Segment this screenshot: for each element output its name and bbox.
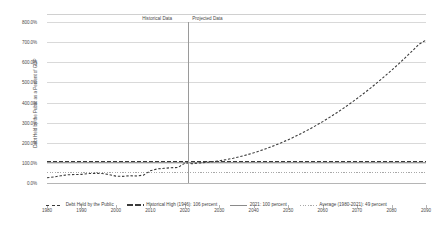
x-axis-tick-label: 1980 [32, 208, 62, 213]
series-debt-held-by-public [47, 22, 426, 183]
x-axis-tick-label: 2080 [377, 208, 407, 213]
x-axis-tick-label: 2040 [239, 208, 269, 213]
historical-data-rule [47, 14, 188, 15]
legend-item-label: Debt Held by the Public [66, 203, 114, 208]
legend-item-label: Average (1980-2021): 49 percent [319, 203, 387, 208]
y-axis-tick-label: 800.0% [0, 20, 37, 25]
legend-swatch-icon [127, 204, 144, 206]
legend-item[interactable]: 2021: 100 percent [230, 203, 287, 208]
y-axis-tick-label: 300.0% [0, 120, 37, 125]
y-axis-tick-label: 700.0% [0, 40, 37, 45]
x-axis-tick-label: 2090 [411, 208, 433, 213]
x-axis-tick-label: 2050 [273, 208, 303, 213]
legend-item[interactable]: Debt Held by the Public [46, 203, 114, 208]
series-line-path [47, 40, 426, 178]
x-axis-tick-label: 2000 [101, 208, 131, 213]
y-axis-tick-label: 600.0% [0, 60, 37, 65]
x-axis-tick-label: 2010 [135, 208, 165, 213]
y-axis-tick-label: 500.0% [0, 80, 37, 85]
y-axis-tick-label: 100.0% [0, 160, 37, 165]
chart-container: 0.0%100.0%200.0%300.0%400.0%500.0%600.0%… [0, 0, 433, 232]
legend-swatch-icon [230, 205, 247, 206]
x-axis-tick-label: 2060 [308, 208, 338, 213]
chart-legend: Debt Held by the PublicHistorical High (… [0, 203, 433, 208]
legend-swatch-icon [300, 205, 317, 206]
historical-data-label: Historical Data [142, 16, 172, 21]
legend-item-label: Historical High (1946): 106 percent [146, 203, 217, 208]
projected-data-rule [188, 14, 426, 15]
y-axis-tick-label: 400.0% [0, 100, 37, 105]
y-axis-tick-label: 0.0% [0, 181, 37, 186]
historical-projected-divider [188, 22, 189, 183]
x-axis-tick-label: 2020 [170, 208, 200, 213]
x-axis-tick-label: 2070 [342, 208, 372, 213]
gridline-y [47, 183, 426, 184]
x-axis-tick-label: 2030 [204, 208, 234, 213]
legend-item[interactable]: Average (1980-2021): 49 percent [300, 203, 387, 208]
legend-item[interactable]: Historical High (1946): 106 percent [127, 203, 217, 208]
plot-area: 0.0%100.0%200.0%300.0%400.0%500.0%600.0%… [47, 22, 426, 183]
legend-swatch-icon [46, 205, 63, 206]
y-axis-tick-label: 200.0% [0, 140, 37, 145]
legend-item-label: 2021: 100 percent [250, 203, 287, 208]
projected-data-label: Projected Data [192, 16, 222, 21]
x-axis-tick-label: 1990 [66, 208, 96, 213]
y-axis-title: Debt Held by the Public as a Percent of … [33, 58, 38, 147]
